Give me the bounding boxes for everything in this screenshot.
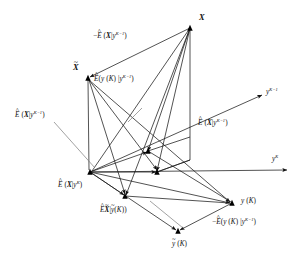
- label-EhatyK: E^(y (K) |yK−1): [94, 76, 134, 83]
- node-X-tilde: [85, 75, 90, 81]
- edge-X-to-upmid: [148, 28, 190, 151]
- y-superscript-K-axis: [90, 170, 287, 172]
- label-negEhatX: −E^ (X|yK−1): [93, 33, 127, 40]
- node-y-tilde-K: [175, 228, 180, 234]
- node-X: [187, 25, 192, 31]
- axis-label-y-K: yK: [272, 156, 278, 163]
- edge-X-to-mid: [157, 28, 190, 171]
- edge-mid-vertical: [157, 160, 190, 172]
- label-ytilde: y~ (K): [172, 241, 187, 248]
- label-negEhatyK: −E^(y (K) |yK−1): [212, 219, 256, 226]
- label-EhatXtilde: E^X~|y~(K)): [100, 207, 127, 214]
- label-X: X: [199, 14, 205, 22]
- label-yK: y (K): [241, 198, 256, 205]
- label-Xtilde: X~: [73, 64, 79, 72]
- edge-layer: [88, 28, 232, 230]
- figure-root: yK−1yKXX~−E^ (X|yK−1)E^(y (K) |yK−1)E^ (…: [0, 0, 300, 262]
- edge-X-to-low: [126, 28, 190, 195]
- label-EhatXright: E^ (X|yK−1): [198, 120, 228, 127]
- edge-Xtilde-down: [88, 80, 89, 170]
- edge-Xtilde-to-mid: [89, 80, 157, 170]
- label-EhatXleft: E^ (X|yK−1): [15, 112, 45, 119]
- y-superscript-K-minus-1-axis: [90, 95, 262, 172]
- label-EhatXyK: E^ (X|yK): [58, 182, 82, 189]
- node-y-K: [229, 200, 234, 206]
- axis-label-y-K-minus-1: yK−1: [266, 89, 278, 96]
- edge-Xtilde-to-low: [89, 80, 125, 194]
